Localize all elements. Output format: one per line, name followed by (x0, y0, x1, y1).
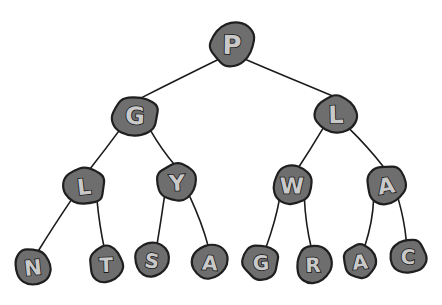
tree-edge (398, 199, 406, 240)
tree-edge (246, 60, 334, 97)
tree-edge (304, 199, 311, 248)
node-label: Y (167, 170, 186, 196)
node-label: W (280, 173, 304, 198)
node-label: G (124, 102, 145, 131)
node-label: G (252, 250, 270, 275)
tree-node[interactable]: G (242, 246, 278, 280)
tree-node[interactable]: G (112, 97, 158, 135)
tree-node[interactable]: S (135, 243, 169, 277)
node-label: N (23, 255, 43, 281)
node-label: T (99, 253, 114, 277)
tree-edge (157, 196, 165, 244)
tree-edge (90, 129, 120, 168)
tree-node[interactable]: A (192, 245, 228, 279)
node-label: L (328, 101, 344, 129)
tree-node[interactable]: R (297, 246, 331, 283)
tree-node[interactable]: L (315, 95, 358, 132)
tree-edge (97, 200, 104, 248)
tree-node[interactable]: Y (157, 163, 196, 201)
tree-node[interactable]: A (367, 167, 406, 205)
node-label: C (400, 245, 415, 269)
tree-node[interactable]: N (16, 249, 51, 284)
tree-node[interactable]: W (274, 165, 312, 204)
tree-node[interactable]: A (344, 244, 376, 278)
tree-edge (142, 60, 218, 98)
node-label: P (222, 30, 242, 60)
tree-edge (349, 128, 384, 167)
node-layer: PGLLYWANTSAGRAC (16, 22, 427, 284)
node-label: A (351, 249, 369, 274)
node-label: R (305, 253, 321, 277)
node-label: L (76, 174, 93, 200)
tree-edge (189, 196, 208, 246)
tree-edge (266, 199, 279, 246)
tree-node[interactable]: T (90, 245, 123, 282)
tree-edge (150, 129, 175, 165)
tree-node[interactable]: L (63, 168, 104, 204)
node-label: A (201, 250, 219, 275)
tree-edge (298, 128, 323, 168)
tree-edge (39, 200, 71, 250)
tree-diagram-canvas: PGLLYWANTSAGRAC (0, 0, 442, 305)
tree-node[interactable]: C (391, 240, 427, 273)
edge-layer (39, 60, 407, 250)
tree-edge (365, 199, 374, 245)
tree-svg: PGLLYWANTSAGRAC (0, 0, 442, 305)
